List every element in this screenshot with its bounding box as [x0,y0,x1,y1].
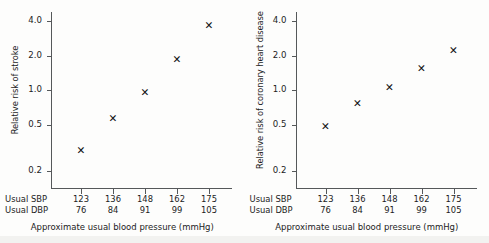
y-tick-label: 1.0 [28,84,42,94]
x-axis-value-sbp: 136 [98,194,128,205]
y-tick-label: 4.0 [273,15,287,25]
y-axis-line [296,12,297,189]
x-axis-row-dbp: Usual DBP 76849199105 [0,205,245,216]
y-tick-label: 0.5 [273,119,287,129]
data-point-marker: ✕ [384,82,395,93]
data-point-marker: ✕ [320,121,331,132]
page-edge-band [0,236,489,243]
y-tick: 1.0 [47,90,52,91]
x-axis-value-rows: Usual SBP 123136148162175 Usual DBP 7684… [0,194,245,218]
y-tick: 4.0 [292,21,297,22]
y-tick-label: 2.0 [273,50,287,60]
plot-area-stroke: 0.20.51.02.04.0 ✕✕✕✕✕ [51,8,232,189]
y-tick: 0.5 [292,125,297,126]
x-axis-row-label-dbp: Usual DBP [5,205,51,216]
chart-panel-stroke: Relative risk of stroke 0.20.51.02.04.0 … [0,0,245,243]
x-axis-title: Approximate usual blood pressure (mmHg) [245,222,489,232]
x-axis-row-sbp: Usual SBP 123136148162175 [0,194,245,205]
x-axis-line [51,188,232,189]
x-axis-value-sbp: 123 [66,194,96,205]
x-axis-value-sbp: 148 [130,194,160,205]
x-axis-value-dbp: 105 [439,205,469,216]
x-axis-value-sbp: 148 [375,194,405,205]
y-tick-label: 0.2 [273,165,287,175]
plot-area-chd: 0.20.51.02.04.0 ✕✕✕✕✕ [296,8,477,189]
data-point-marker: ✕ [172,54,183,65]
data-point-marker: ✕ [416,63,427,74]
x-axis-value-dbp: 76 [66,205,96,216]
y-tick-label: 0.5 [28,119,42,129]
x-axis-row-label-sbp: Usual SBP [250,194,296,205]
x-axis-value-sbp: 162 [162,194,192,205]
data-point-marker: ✕ [140,87,151,98]
data-point-marker: ✕ [352,98,363,109]
x-axis-value-dbp: 99 [162,205,192,216]
chart-panel-chd: Relative risk of coronary heart disease … [245,0,489,243]
data-point-marker: ✕ [448,45,459,56]
x-axis-value-dbp: 91 [375,205,405,216]
x-axis-value-sbp: 175 [439,194,469,205]
x-axis-value-sbp: 162 [407,194,437,205]
x-axis-value-dbp: 76 [311,205,341,216]
y-tick: 0.5 [47,125,52,126]
x-axis-value-dbp: 99 [407,205,437,216]
y-tick: 0.2 [47,171,52,172]
y-axis-line [51,12,52,189]
data-point-marker: ✕ [108,113,119,124]
x-axis-value-sbp: 136 [343,194,373,205]
x-axis-row-sbp: Usual SBP 123136148162175 [245,194,489,205]
y-axis-title: Relative risk of stroke [8,2,22,178]
y-axis-title: Relative risk of coronary heart disease [253,2,267,178]
data-point-marker: ✕ [76,145,87,156]
data-point-marker: ✕ [204,20,215,31]
y-tick: 4.0 [47,21,52,22]
x-axis-value-dbp: 84 [98,205,128,216]
x-axis-row-label-dbp: Usual DBP [250,205,296,216]
y-tick-label: 1.0 [273,84,287,94]
y-tick-label: 2.0 [28,50,42,60]
x-axis-value-dbp: 105 [194,205,224,216]
figure-container: Relative risk of stroke 0.20.51.02.04.0 … [0,0,489,243]
x-axis-value-sbp: 175 [194,194,224,205]
x-axis-line [296,188,477,189]
x-axis-value-dbp: 84 [343,205,373,216]
y-tick-label: 4.0 [28,15,42,25]
y-tick-label: 0.2 [28,165,42,175]
x-axis-value-rows: Usual SBP 123136148162175 Usual DBP 7684… [245,194,489,218]
x-axis-title: Approximate usual blood pressure (mmHg) [0,222,245,232]
y-tick: 2.0 [292,56,297,57]
y-tick: 0.2 [292,171,297,172]
x-axis-row-label-sbp: Usual SBP [5,194,51,205]
x-axis-row-dbp: Usual DBP 76849199105 [245,205,489,216]
x-axis-value-dbp: 91 [130,205,160,216]
y-tick: 1.0 [292,90,297,91]
x-axis-value-sbp: 123 [311,194,341,205]
y-tick: 2.0 [47,56,52,57]
